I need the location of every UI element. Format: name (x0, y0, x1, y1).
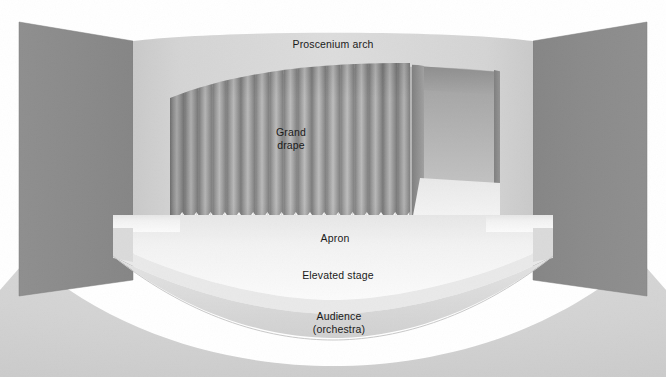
stage-diagram-canvas (0, 0, 666, 377)
theater-stage-diagram: Proscenium arch Grand drape Apron Elevat… (0, 0, 666, 377)
